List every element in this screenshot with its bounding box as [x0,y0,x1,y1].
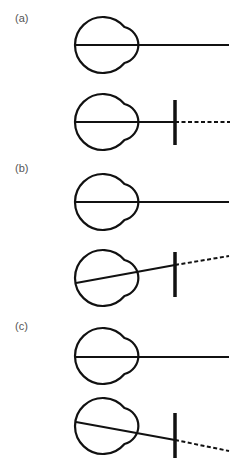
eye-row [75,17,229,73]
eye-row [75,250,229,306]
eye-row [75,398,229,458]
eye-optics-diagram [0,0,242,475]
panel-a [75,17,230,150]
projected-axis-dashed-line [175,256,229,265]
eye-row [75,328,229,384]
visual-axis-line [76,265,175,283]
panel-c [75,328,229,458]
eye-row [75,94,230,150]
projected-axis-dashed-line [175,440,229,451]
eye-row [75,174,229,230]
panel-b [75,174,229,306]
visual-axis-line [76,422,175,440]
eye-outline-icon [75,398,138,454]
